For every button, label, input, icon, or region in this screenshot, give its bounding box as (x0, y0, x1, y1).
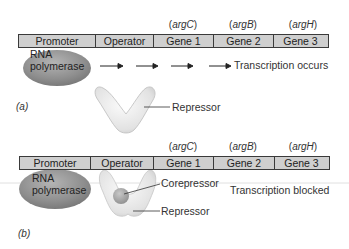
repressor-label-a: Repressor (172, 101, 220, 113)
segment-gene2-a: Gene 2 (214, 35, 274, 47)
gene-name-argh-b: (argH) (273, 141, 333, 152)
panel-label-b: (b) (18, 228, 30, 239)
segment-gene2-b: Gene 2 (214, 157, 275, 169)
dna-bar-b: Promoter Operator Gene 1 Gene 2 Gene 3 (19, 156, 330, 170)
status-transcription-occurs: Transcription occurs (234, 59, 328, 71)
panel-label-a: (a) (16, 101, 28, 112)
gene-name-argb-a: (argB) (213, 19, 273, 30)
segment-operator-b: Operator (91, 157, 154, 169)
gene-name-argc-b: (argC) (153, 141, 213, 152)
transcription-arrows-a (100, 64, 231, 69)
segment-promoter-b: Promoter (20, 157, 91, 169)
polymerase-label-a: RNA polymerase (30, 48, 84, 72)
polymerase-label-b: RNA polymerase (32, 172, 86, 196)
dna-bar-a: Promoter Operator Gene 1 Gene 2 Gene 3 (18, 34, 329, 48)
repressor-shape-a (95, 87, 155, 133)
segment-gene3-b: Gene 3 (275, 157, 328, 169)
segment-gene1-b: Gene 1 (154, 157, 214, 169)
corepressor-label-b: Corepressor (161, 177, 219, 189)
repressor-label-b: Repressor (161, 205, 209, 217)
gene-name-argh-a: (argH) (273, 19, 333, 30)
gene-name-argb-b: (argB) (213, 141, 273, 152)
status-transcription-blocked: Transcription blocked (230, 184, 329, 196)
segment-operator-a: Operator (96, 35, 154, 47)
gene-name-argc-a: (argC) (153, 19, 213, 30)
segment-promoter-a: Promoter (19, 35, 96, 47)
segment-gene1-a: Gene 1 (154, 35, 214, 47)
segment-gene3-a: Gene 3 (274, 35, 327, 47)
corepressor-shape-b (113, 188, 129, 204)
